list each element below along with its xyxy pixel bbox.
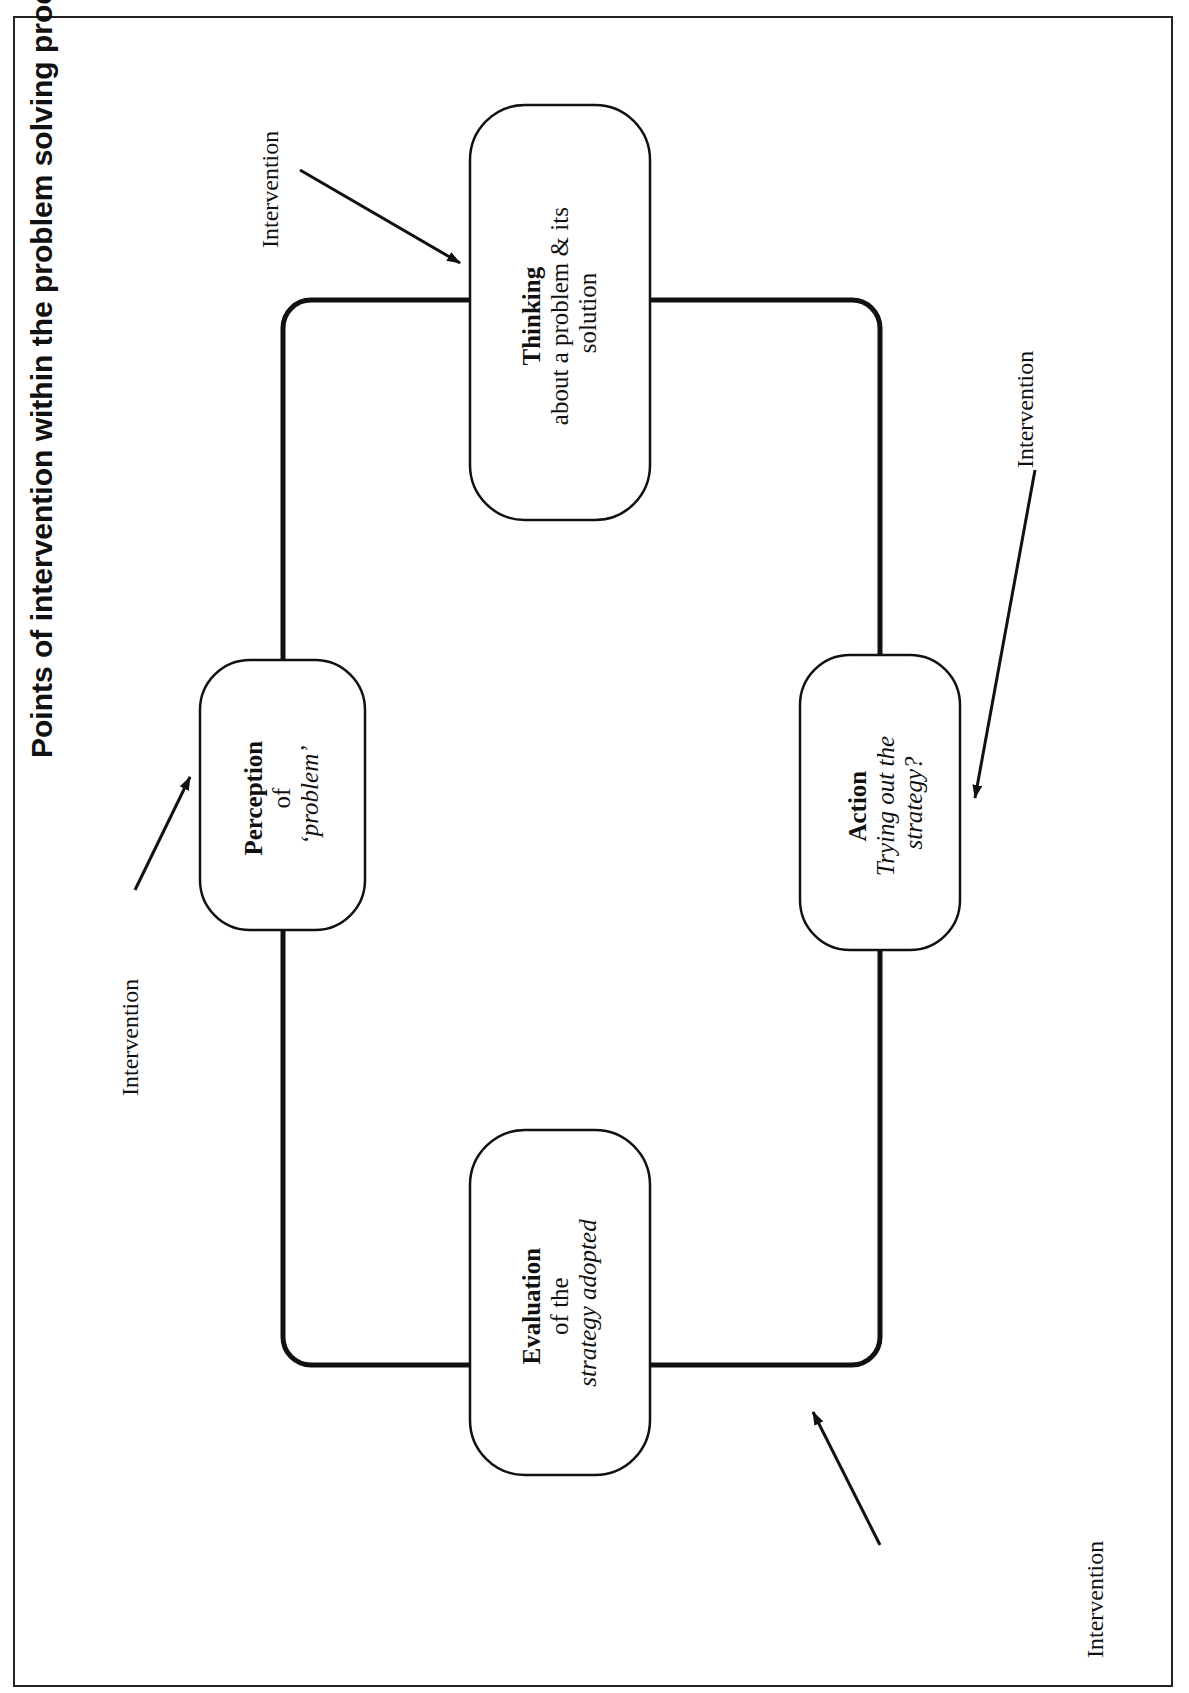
evaluation-heading: Evaluation	[518, 1248, 545, 1365]
arrow-icon-action	[975, 470, 1035, 798]
evaluation-line2: strategy adopted	[574, 1219, 601, 1387]
box-perception: Perception of ‘problem’	[200, 660, 365, 930]
perception-line1: of	[268, 787, 295, 809]
page-title: Points of intervention within the proble…	[25, 0, 58, 758]
intervention-label-evaluation: Intervention	[1082, 1541, 1108, 1658]
action-heading: Action	[844, 771, 871, 842]
thinking-line1: about a problem & its	[546, 207, 573, 425]
intervention-label-perception: Intervention	[117, 979, 143, 1096]
diagram-canvas: Points of intervention within the proble…	[0, 0, 1189, 1693]
box-thinking: Thinking about a problem & its solution	[470, 105, 650, 520]
intervention-label-action: Intervention	[1012, 351, 1038, 468]
arrow-icon-thinking	[300, 170, 460, 263]
action-line1: Trying out the	[872, 736, 899, 876]
thinking-heading: Thinking	[518, 266, 545, 365]
thinking-line2: solution	[574, 272, 601, 353]
arrow-icon-evaluation	[813, 1412, 880, 1545]
rotated-page: Points of intervention within the proble…	[0, 0, 1189, 1693]
evaluation-line1: of the	[546, 1277, 573, 1335]
perception-heading: Perception	[240, 741, 267, 856]
arrow-icon-perception	[135, 777, 190, 890]
intervention-label-thinking: Intervention	[257, 131, 283, 248]
perception-line2: ‘problem’	[296, 745, 323, 844]
box-action: Action Trying out the strategy?	[800, 655, 960, 950]
action-line2: strategy?	[900, 756, 927, 850]
box-evaluation: Evaluation of the strategy adopted	[470, 1130, 650, 1475]
